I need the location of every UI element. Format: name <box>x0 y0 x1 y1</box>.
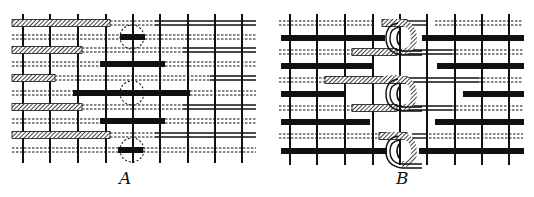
panel-label-a: A <box>119 168 131 188</box>
diagram-panel-b: B <box>267 0 534 197</box>
loop-outline <box>390 27 422 51</box>
solid-thread <box>437 63 524 69</box>
solid-thread <box>281 148 387 154</box>
solid-thread <box>463 91 524 97</box>
solid-thread <box>118 147 143 153</box>
panel-label-b: B <box>396 168 409 188</box>
loop-inner <box>397 87 399 101</box>
solid-thread <box>281 119 370 125</box>
loop-inner <box>397 31 399 45</box>
solid-thread <box>435 119 524 125</box>
solid-thread <box>281 63 372 69</box>
diagram-panel-a: A <box>0 0 267 197</box>
solid-thread <box>100 118 165 124</box>
solid-thread <box>419 148 524 154</box>
hatched-thread <box>12 47 82 54</box>
hatched-thread <box>12 75 55 82</box>
solid-thread <box>281 91 345 97</box>
loop-outline <box>390 140 422 164</box>
solid-thread <box>120 34 145 40</box>
solid-thread <box>73 90 190 96</box>
hatched-thread <box>12 132 110 139</box>
hatched-thread <box>12 20 110 27</box>
solid-thread <box>422 35 524 41</box>
weave-diagram-a <box>0 0 267 197</box>
loop-inner <box>397 144 399 158</box>
loop-outline <box>390 83 422 107</box>
solid-thread <box>100 61 165 67</box>
hatched-thread <box>12 104 82 111</box>
solid-thread <box>281 35 385 41</box>
